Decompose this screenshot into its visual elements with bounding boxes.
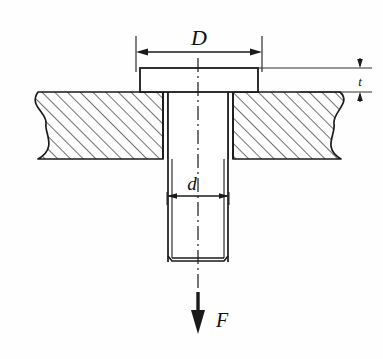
bolted-joint-diagram: D d t F: [0, 0, 383, 359]
arrow-t-top: [357, 59, 363, 68]
plate-left-section: [30, 92, 170, 160]
force-arrow-head: [191, 310, 205, 334]
arrow-t-bottom: [357, 92, 363, 101]
bolt-head: [140, 68, 258, 92]
arrow-D-left: [136, 49, 148, 56]
dimension-label-D: D: [190, 25, 207, 50]
plate-right-section: [228, 92, 353, 160]
dimension-D: D: [136, 25, 262, 72]
figure-canvas: D d t F: [0, 0, 383, 359]
force-label-F: F: [215, 309, 229, 331]
dimension-label-d: d: [187, 173, 197, 194]
plate-left-hatching: [30, 92, 170, 160]
dimension-label-t: t: [358, 74, 362, 89]
arrow-D-right: [250, 49, 262, 56]
force-arrow-group: F: [191, 292, 229, 334]
bolt-head-outline: [140, 68, 258, 92]
